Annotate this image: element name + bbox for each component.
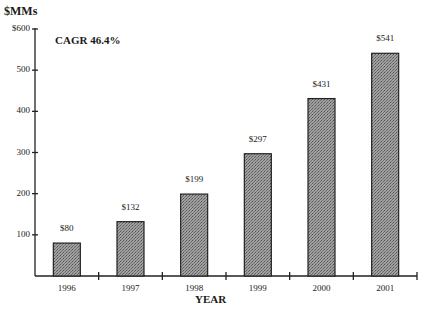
y-tick-label: $600 — [2, 23, 30, 33]
bar-1998 — [181, 194, 208, 276]
x-axis-title: YEAR — [195, 293, 226, 305]
value-label: $199 — [174, 174, 214, 184]
value-label: $132 — [111, 202, 151, 212]
value-label: $80 — [47, 223, 87, 233]
bars — [53, 53, 398, 276]
x-tick-label: 1999 — [238, 283, 278, 293]
y-tick-label: 400 — [2, 105, 30, 115]
value-label: $297 — [238, 134, 278, 144]
y-tick-label: 100 — [2, 229, 30, 239]
x-tick-label: 1996 — [47, 283, 87, 293]
x-tick-label: 1998 — [174, 283, 214, 293]
value-label: $431 — [302, 79, 342, 89]
bar-1999 — [244, 154, 271, 276]
y-tick-label: 200 — [2, 188, 30, 198]
y-tick-label: 300 — [2, 147, 30, 157]
bar-1996 — [53, 243, 80, 276]
chart-canvas — [0, 0, 423, 309]
x-tick-label: 2001 — [365, 283, 405, 293]
y-tick-label: 500 — [2, 64, 30, 74]
x-tick-label: 2000 — [302, 283, 342, 293]
x-tick-label: 1997 — [111, 283, 151, 293]
bar-1997 — [117, 222, 144, 276]
bar-2000 — [308, 99, 335, 276]
value-label: $541 — [365, 33, 405, 43]
bar-2001 — [372, 53, 399, 276]
axes — [32, 28, 417, 280]
